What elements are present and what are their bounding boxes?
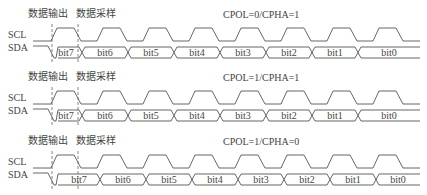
bit-label: bit5 [146,175,192,185]
bit-label: bit5 [128,111,174,121]
bit-label: bit3 [220,48,266,58]
bit-label: bit7 [50,48,82,58]
scl-waveform [33,28,420,41]
bit-label: bit0 [358,111,420,121]
timing-panel-3: 数据输出 数据采样 CPOL=1/CPHA=0 SCL SDA bit7 bit… [0,127,427,191]
scl-waveform [33,155,420,168]
bit-label: bit3 [220,111,266,121]
bit-label: bit1 [312,48,358,58]
bit-label: bit7 [50,111,82,121]
bit-label: bit3 [238,175,284,185]
bit-label: bit2 [266,111,312,121]
bit-label: bit7 [58,175,100,185]
timing-panel-2: 数据输出 数据采样 CPOL=1/CPHA=1 SCL SDA bit7 bit… [0,63,427,127]
bit-label: bit4 [192,175,238,185]
sda-idle [33,173,56,185]
bit-label: bit4 [174,111,220,121]
bit-label: bit6 [100,175,146,185]
bit-label: bit2 [266,48,312,58]
bit-label: bit4 [174,48,220,58]
bit-label: bit0 [376,175,420,185]
bit-label: bit1 [330,175,376,185]
bit-label: bit1 [312,111,358,121]
scl-waveform [33,91,420,104]
bit-label: bit2 [284,175,330,185]
timing-panel-1: 数据输出 数据采样 CPOL=0/CPHA=1 SCL SDA bit7 bit… [0,0,427,64]
bit-label: bit5 [128,48,174,58]
bit-label: bit6 [82,111,128,121]
bit-label: bit6 [82,48,128,58]
bit-label: bit0 [358,48,420,58]
